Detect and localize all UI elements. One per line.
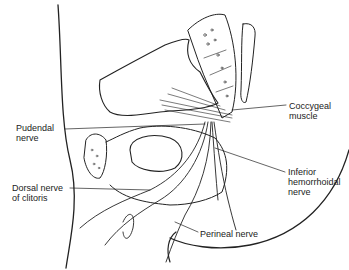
ischium-texture bbox=[91, 149, 100, 169]
coccyx bbox=[241, 24, 255, 103]
sacrum bbox=[188, 14, 236, 118]
label-pudendal-nerve: Pudendal nerve bbox=[16, 123, 54, 143]
body-contour-right bbox=[170, 150, 349, 248]
ischial-tuberosity bbox=[84, 134, 107, 178]
label-dorsal-nerve-of-clitoris: Dorsal nerve of clitoris bbox=[12, 183, 63, 203]
obturator-foramen bbox=[130, 136, 182, 172]
body-contour-left bbox=[58, 5, 74, 268]
pubic-ramus bbox=[106, 126, 227, 205]
label-coccygeal-muscle: Coccygeal muscle bbox=[289, 101, 331, 121]
anatomical-diagram: Coccygeal muscle Pudendal nerve Inferior… bbox=[0, 0, 349, 270]
ilium bbox=[99, 39, 218, 115]
perineal-body bbox=[168, 232, 176, 262]
label-inferior-hemorrhoidal-nerve: Inferior hemorrhoidal nerve bbox=[288, 167, 341, 197]
nerve-branches bbox=[80, 122, 236, 262]
label-perineal-nerve: Perineal nerve bbox=[200, 229, 258, 239]
